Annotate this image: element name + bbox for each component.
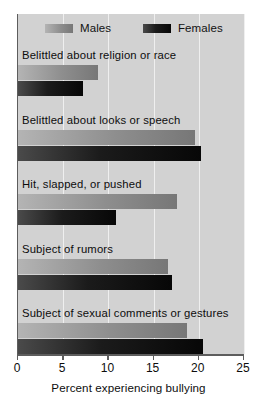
gridline bbox=[244, 14, 245, 354]
tick-mark bbox=[107, 354, 108, 360]
bar-females-4 bbox=[18, 339, 203, 354]
category-label: Subject of rumors bbox=[22, 242, 113, 257]
bar-females-0 bbox=[18, 81, 83, 96]
category-label: Hit, slapped, or pushed bbox=[22, 177, 142, 192]
tick-mark bbox=[17, 354, 18, 360]
category-label: Belittled about looks or speech bbox=[22, 113, 181, 128]
bar-females-3 bbox=[18, 275, 172, 290]
tick-label: 5 bbox=[59, 361, 66, 375]
tick-mark bbox=[153, 354, 154, 360]
tick-label: 10 bbox=[101, 361, 114, 375]
legend-swatch-females-icon bbox=[143, 24, 171, 33]
legend-entry-females: Females bbox=[143, 18, 223, 38]
tick-label: 20 bbox=[191, 361, 204, 375]
tick-label: 15 bbox=[146, 361, 159, 375]
x-axis-line bbox=[17, 354, 243, 356]
legend-label-females: Females bbox=[178, 22, 223, 34]
bar-females-1 bbox=[18, 146, 201, 161]
chart-legend: Males Females bbox=[18, 18, 244, 38]
bar-males-4 bbox=[18, 323, 187, 338]
gridline bbox=[199, 14, 200, 354]
tick-mark bbox=[198, 354, 199, 360]
tick-mark bbox=[62, 354, 63, 360]
bar-males-0 bbox=[18, 65, 98, 80]
bar-males-3 bbox=[18, 259, 168, 274]
legend-label-males: Males bbox=[80, 22, 111, 34]
category-label: Subject of sexual comments or gestures bbox=[22, 306, 229, 321]
legend-swatch-males-icon bbox=[45, 24, 73, 33]
legend-entry-males: Males bbox=[45, 18, 111, 38]
tick-label: 25 bbox=[236, 361, 249, 375]
bar-males-1 bbox=[18, 130, 195, 145]
bar-females-2 bbox=[18, 210, 116, 225]
category-label: Belittled about religion or race bbox=[22, 48, 176, 63]
tick-label: 0 bbox=[14, 361, 21, 375]
x-axis-title: Percent experiencing bullying bbox=[0, 381, 257, 394]
bar-males-2 bbox=[18, 194, 177, 209]
tick-mark bbox=[243, 354, 244, 360]
plot-area: Males Females Belittled about religion o… bbox=[17, 14, 244, 354]
gridline bbox=[154, 14, 155, 354]
bullying-bar-chart-figure: Males Females Belittled about religion o… bbox=[0, 0, 257, 405]
